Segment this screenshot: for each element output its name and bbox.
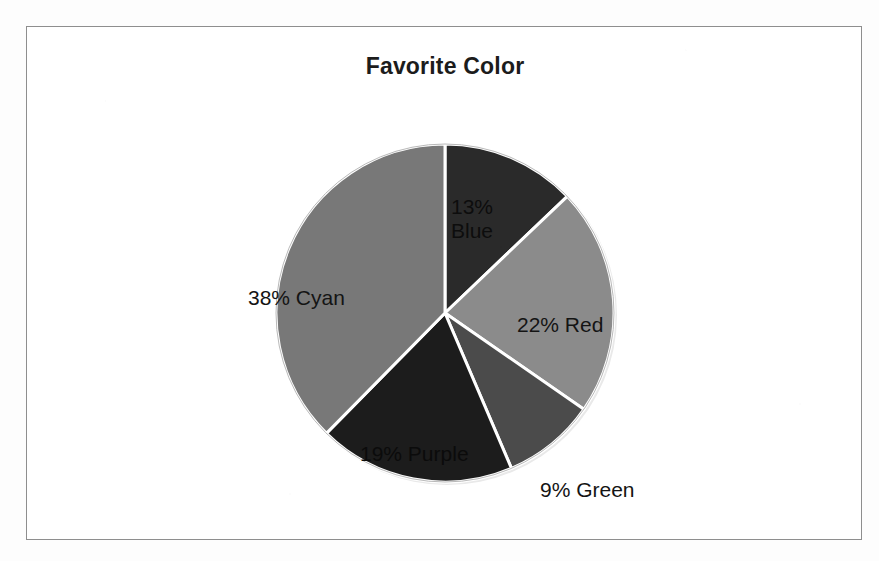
pie-label-red: 22% Red [517,313,657,337]
pie-label-purple: 19% Purple [360,442,520,466]
pie-label-green: 9% Green [540,478,690,502]
pie-label-blue: 13% Blue [451,195,547,243]
scanned-page: Favorite Color [0,0,879,561]
chart-frame: Favorite Color [26,26,862,540]
pie-label-cyan: 38% Cyan [248,286,408,310]
pie-chart: 13% Blue 22% Red 9% Green 19% Purple 38%… [27,27,863,541]
